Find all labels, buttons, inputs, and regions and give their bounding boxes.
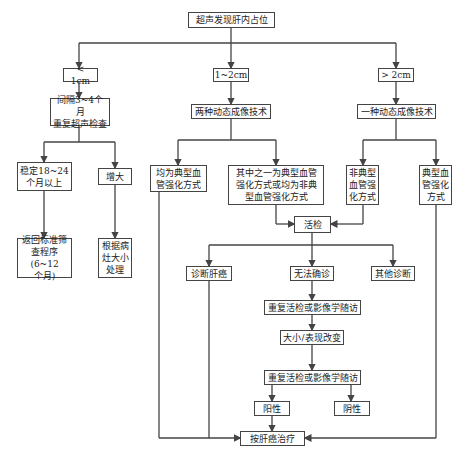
node-size-lt-1cm: < 1cm (63, 68, 98, 82)
node-stable-18-24-months: 稳定18~24 个月以上 (17, 162, 72, 191)
node-biopsy: 活检 (294, 216, 331, 233)
node-enlarged: 增大 (98, 168, 132, 185)
node-repeat-biopsy-or-imaging-2: 重复活检或影像学随访 (264, 370, 361, 385)
liver-lesion-flowchart: 超声发现肝内占位 < 1cm 1~2cm > 2cm 间隔3~4个月 重复超声检… (0, 0, 467, 456)
node-interval-repeat-ultrasound: 间隔3~4个月 重复超声检查 (50, 98, 110, 126)
node-other-diagnosis: 其他诊断 (371, 266, 415, 281)
node-undetermined: 无法确诊 (290, 266, 334, 281)
node-return-standard-screening: 返回标准筛 查程序(6~12 个月) (17, 238, 72, 278)
node-repeat-biopsy-or-imaging-1: 重复活检或影像学随访 (264, 300, 361, 315)
node-positive: 阳性 (254, 401, 290, 416)
node-both-typical-enhancement: 均为典型血 管强化方式 (150, 165, 207, 192)
node-negative: 阴性 (334, 401, 370, 416)
node-one-dynamic-imaging: 一种动态成像技术 (357, 104, 436, 119)
node-one-typical-or-both-atypical: 其中之一为典型血管 强化方式或均为非典 型血管强化方式 (228, 165, 324, 205)
node-two-dynamic-imaging: 两种动态成像技术 (191, 104, 271, 119)
node-size-gt-2cm: > 2cm (378, 68, 414, 82)
node-size-appearance-change: 大小/表现改变 (280, 330, 344, 345)
node-atypical-enhancement: 非典型 血管强 化方式 (346, 165, 379, 205)
node-treat-by-lesion-size: 根据病 灶大小 处理 (98, 238, 132, 278)
node-size-1-2cm: 1~2cm (213, 68, 249, 82)
node-root-lesion-found: 超声发现肝内占位 (188, 12, 275, 28)
node-typical-enhancement: 典型血 管强化 方式 (419, 165, 452, 205)
node-treat-as-hcc: 按肝癌治疗 (240, 431, 305, 446)
node-diagnose-hcc: 诊断肝癌 (186, 266, 232, 281)
